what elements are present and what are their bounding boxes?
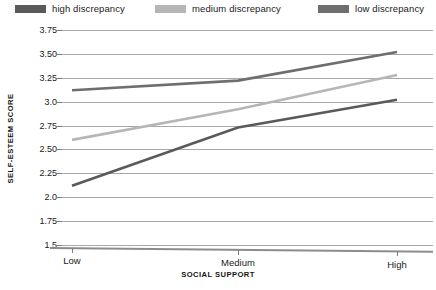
- x-axis-tick: [397, 251, 398, 256]
- y-axis-tick: [57, 54, 62, 55]
- x-axis-tick-label: High: [387, 259, 407, 270]
- series-line: [72, 100, 397, 186]
- y-axis-tick-label: 3.50: [39, 49, 57, 59]
- y-axis-tick-label: 3.75: [39, 25, 57, 35]
- legend-item-medium-discrepancy: medium discrepancy: [155, 3, 281, 14]
- legend-label-low-discrepancy: low discrepancy: [355, 3, 424, 14]
- legend-item-high-discrepancy: high discrepancy: [15, 3, 125, 14]
- legend-label-high-discrepancy: high discrepancy: [52, 3, 125, 14]
- y-axis-tick: [57, 221, 62, 222]
- y-axis-tick-labels: 3.753.503.253.02.752.502.252.01.751.5: [22, 22, 57, 267]
- x-axis-tick-label: Medium: [221, 257, 255, 268]
- y-axis-tick-label: 2.50: [39, 144, 57, 154]
- y-axis-tick: [57, 102, 62, 103]
- x-axis-tick: [72, 248, 73, 253]
- y-axis-tick: [57, 245, 62, 246]
- y-axis-tick: [57, 173, 62, 174]
- legend-item-low-discrepancy: low discrepancy: [318, 3, 424, 14]
- y-axis-tick-label: 1.75: [39, 216, 57, 226]
- series-lines: [62, 22, 433, 267]
- y-axis-tick: [57, 126, 62, 127]
- chart-legend: high discrepancy medium discrepancy low …: [0, 0, 436, 22]
- legend-swatch-high-discrepancy: [15, 5, 46, 13]
- y-axis-tick: [57, 149, 62, 150]
- x-axis-tick: [238, 250, 239, 255]
- y-axis-tick-label: 3.25: [39, 73, 57, 83]
- x-axis-title: SOCIAL SUPPORT: [0, 270, 436, 279]
- y-axis-tick-label: 2.0: [44, 192, 57, 202]
- y-axis-tick-label: 2.25: [39, 168, 57, 178]
- y-axis-tick: [57, 78, 62, 79]
- plot-area: SELF-ESTEEM SCORE 3.753.503.253.02.752.5…: [0, 22, 436, 290]
- y-axis-tick: [57, 197, 62, 198]
- y-axis-tick-label: 2.75: [39, 121, 57, 131]
- legend-swatch-low-discrepancy: [318, 5, 349, 13]
- chart-figure: high discrepancy medium discrepancy low …: [0, 0, 436, 290]
- y-axis-tick-label: 3.0: [44, 97, 57, 107]
- y-axis-title: SELF-ESTEEM SCORE: [6, 79, 15, 199]
- x-axis-tick-label: Low: [63, 255, 80, 266]
- legend-label-medium-discrepancy: medium discrepancy: [192, 3, 281, 14]
- y-axis-tick: [57, 30, 62, 31]
- legend-swatch-medium-discrepancy: [155, 5, 186, 13]
